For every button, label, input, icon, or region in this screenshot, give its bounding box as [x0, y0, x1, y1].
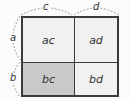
cell-bd: bd: [75, 63, 117, 95]
cell-ad: ad: [75, 18, 117, 62]
dimension-label-b: b: [9, 73, 17, 83]
cell-label-ad: ad: [89, 34, 103, 47]
cell-label-bc: bc: [42, 73, 55, 86]
dimension-label-a: a: [9, 33, 17, 43]
cell-ac: ac: [23, 18, 74, 62]
cell-label-ac: ac: [42, 34, 55, 47]
area-model-diagram: c d a b ac ad bc bd: [0, 0, 130, 101]
area-grid: ac ad bc bd: [21, 16, 119, 97]
dimension-label-c: c: [42, 2, 50, 12]
dimension-label-d: d: [92, 2, 100, 12]
cell-label-bd: bd: [89, 73, 103, 86]
cell-bc: bc: [23, 63, 74, 95]
